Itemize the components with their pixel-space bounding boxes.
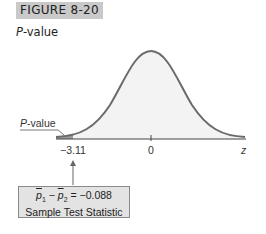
pvalue-label: P-value xyxy=(20,117,56,129)
stat-caption: Sample Test Statistic xyxy=(19,206,129,219)
tick-label-zero: 0 xyxy=(148,144,154,156)
stat-equation: p1 − p2 = −0.088 xyxy=(19,189,129,206)
sample-test-statistic-box: p1 − p2 = −0.088 Sample Test Statistic xyxy=(18,186,130,218)
axis-label-z: z xyxy=(241,144,246,156)
arrow-head xyxy=(70,160,76,166)
pvalue-leader-line xyxy=(20,130,64,135)
tick-label-neg: −3.11 xyxy=(60,144,86,156)
curve-fill xyxy=(56,51,245,139)
